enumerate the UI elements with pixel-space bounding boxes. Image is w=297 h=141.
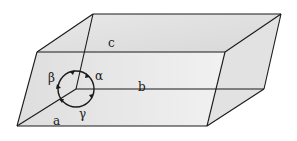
label-gamma: γ — [79, 107, 86, 121]
label-b: b — [138, 80, 146, 94]
label-c: c — [108, 36, 115, 50]
label-a: a — [53, 114, 60, 128]
label-alpha: α — [95, 69, 103, 83]
label-beta: β — [48, 71, 55, 85]
unit-cell-diagram: c b a α β γ — [0, 0, 297, 141]
